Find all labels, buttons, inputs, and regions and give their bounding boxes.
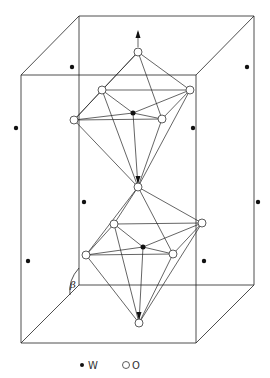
- w-atom: [14, 126, 18, 130]
- beta-angle-label: β: [69, 279, 76, 290]
- w-atom-upper-center: [131, 111, 136, 116]
- o-atom: [110, 220, 118, 228]
- o-atom: [134, 48, 142, 56]
- arrow-up-icon: [136, 30, 141, 38]
- lower-octahedron: [86, 176, 202, 323]
- w-atom: [26, 259, 30, 263]
- o-atom: [70, 116, 78, 124]
- upper-octahedron: [74, 30, 190, 187]
- w-atom: [191, 126, 195, 130]
- legend-o-circle-icon: [123, 362, 130, 369]
- front-face: [21, 75, 196, 343]
- o-atom: [169, 250, 177, 258]
- cell-edge-bottom-left: [21, 285, 79, 343]
- o-atom: [186, 86, 194, 94]
- o-atom: [82, 251, 90, 259]
- w-atom: [256, 200, 260, 204]
- back-face: [79, 16, 254, 285]
- o-atom: [98, 86, 106, 94]
- o-atom: [198, 219, 206, 227]
- legend-w-dot-icon: [80, 363, 84, 367]
- o-atom: [134, 183, 142, 191]
- legend-w-label: W: [88, 360, 98, 371]
- w-atom: [245, 65, 249, 69]
- o-atom: [135, 319, 143, 327]
- w-atom-lower-center: [141, 245, 146, 250]
- legend-o-label: O: [132, 360, 140, 371]
- cell-edge-bottom-right: [196, 285, 254, 343]
- w-atom: [202, 259, 206, 263]
- o-atom: [158, 115, 166, 123]
- w-atom: [82, 200, 86, 204]
- w-atom: [70, 65, 74, 69]
- legend: W O: [80, 360, 140, 371]
- crystal-structure-diagram: β: [0, 0, 270, 378]
- isolated-w-atoms: [14, 65, 260, 263]
